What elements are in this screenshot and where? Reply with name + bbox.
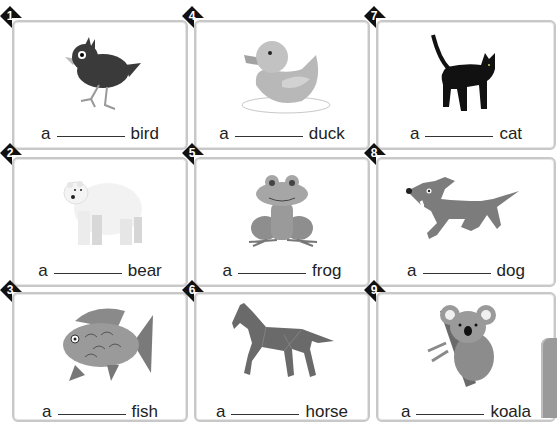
card-bear: abear [12,157,188,287]
article: a [41,124,50,143]
card-caption: acat [378,124,554,144]
animal-name: fish [132,402,158,421]
article: a [223,261,232,280]
article: a [42,402,51,421]
answer-blank[interactable] [238,273,306,274]
number-badge: 4 [182,6,206,30]
answer-blank[interactable] [235,136,303,137]
duck-icon [196,28,368,120]
answer-blank[interactable] [231,414,299,415]
animal-name: bear [128,261,162,280]
card-koala: akoala [376,292,556,422]
number-badge: 9 [364,280,388,304]
card-caption: afrog [196,261,368,281]
card-cat: acat [376,20,556,150]
card-dog: adog [376,157,556,287]
article: a [410,124,419,143]
card-caption: abear [14,261,186,281]
article: a [38,261,47,280]
answer-blank[interactable] [425,136,493,137]
article: a [216,402,225,421]
card-horse: ahorse [194,292,370,422]
animal-name: duck [309,124,345,143]
fish-icon [14,300,186,392]
article: a [407,261,416,280]
number-badge: 7 [364,6,388,30]
horse-icon [196,300,368,392]
animal-name: dog [497,261,525,280]
number-badge: 8 [364,143,388,167]
animal-name: cat [499,124,522,143]
article: a [219,124,228,143]
card-frog: afrog [194,157,370,287]
card-caption: abird [14,124,186,144]
answer-blank[interactable] [57,136,125,137]
koala-icon [378,300,554,392]
card-fish: afish [12,292,188,422]
card-caption: aduck [196,124,368,144]
card-caption: ahorse [196,402,368,422]
number-badge: 1 [0,6,24,30]
page-side-tab [541,338,557,418]
cat-icon [378,28,554,120]
animal-name: frog [312,261,341,280]
dog-icon [378,165,554,257]
number-badge: 6 [182,280,206,304]
number-badge: 5 [182,143,206,167]
bird-icon [14,28,186,120]
card-bird: abird [12,20,188,150]
animal-name: bird [131,124,159,143]
article: a [401,402,410,421]
card-caption: adog [378,261,554,281]
answer-blank[interactable] [423,273,491,274]
number-badge: 2 [0,143,24,167]
answer-blank[interactable] [58,414,126,415]
animal-name: koala [490,402,531,421]
card-caption: afish [14,402,186,422]
bear-icon [14,165,186,257]
answer-blank[interactable] [416,414,484,415]
frog-icon [196,165,368,257]
animal-name: horse [305,402,348,421]
card-caption: akoala [378,402,554,422]
number-badge: 3 [0,280,24,304]
answer-blank[interactable] [54,273,122,274]
card-duck: aduck [194,20,370,150]
